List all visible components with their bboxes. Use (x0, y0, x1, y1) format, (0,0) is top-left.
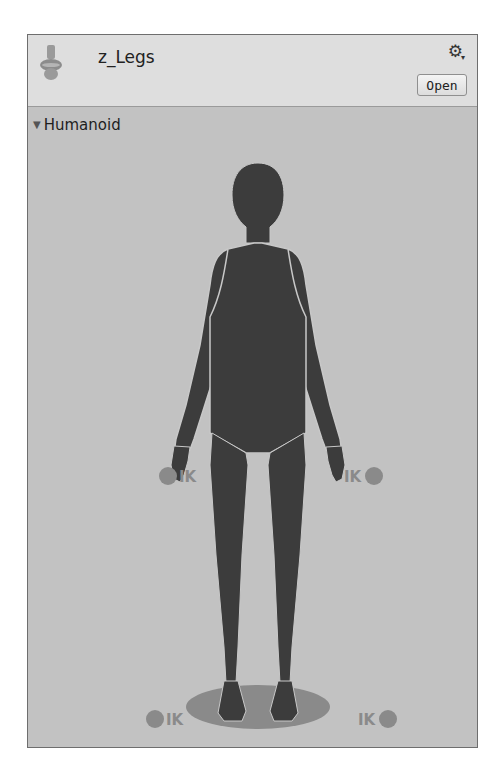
body-part-left-leg[interactable] (210, 433, 248, 683)
ik-left-hand-toggle[interactable] (159, 467, 177, 485)
ik-left-hand-label: IK (179, 468, 198, 486)
ik-left-foot-toggle[interactable] (146, 710, 164, 728)
inspector-panel: z_Legs ⚙▾ Open ▼Humanoid IK IK (27, 34, 478, 748)
humanoid-body-mask: IK IK IK IK (28, 35, 479, 749)
body-part-torso[interactable] (210, 243, 306, 453)
body-part-right-hand[interactable] (326, 446, 345, 482)
ik-left-foot-label: IK (166, 711, 185, 729)
body-part-right-leg[interactable] (268, 433, 306, 683)
ik-right-hand-label: IK (344, 468, 363, 486)
ik-right-foot-label: IK (358, 711, 377, 729)
ik-right-foot-toggle[interactable] (379, 710, 397, 728)
body-part-head[interactable] (232, 163, 284, 243)
ik-right-hand-toggle[interactable] (365, 467, 383, 485)
root-shadow[interactable] (186, 685, 330, 729)
